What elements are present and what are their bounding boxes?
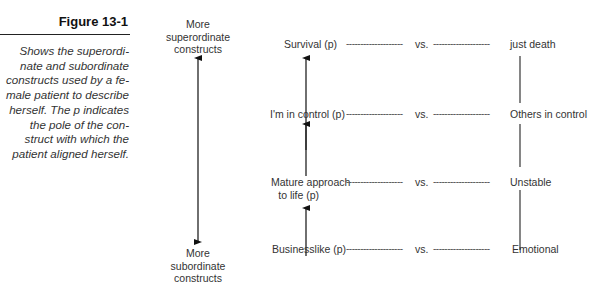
vs-label: vs.: [415, 38, 428, 51]
dash-line: --------------------: [433, 38, 490, 49]
construct-right-emotional: Emotional: [512, 243, 559, 256]
construct-left-survival: Survival (p): [284, 38, 337, 51]
construct-left-in-control: I'm in control (p): [270, 108, 345, 121]
construct-right-unstable: Unstable: [510, 176, 551, 189]
dash-line: --------------------: [433, 243, 490, 254]
vs-label: vs.: [415, 243, 428, 256]
dash-line: --------------------: [346, 243, 403, 254]
construct-left-mature-approach: Mature approach to life (p): [271, 176, 350, 201]
dash-line: --------------------: [346, 38, 403, 49]
vs-label: vs.: [415, 176, 428, 189]
dash-line: --------------------: [346, 108, 403, 119]
construct-left-businesslike: Businesslike (p): [272, 243, 346, 256]
construct-right-others-in-control: Others in control: [510, 108, 587, 121]
dash-line: --------------------: [433, 176, 490, 187]
vs-label: vs.: [415, 108, 428, 121]
construct-right-just-death: just death: [510, 38, 556, 51]
dash-line: --------------------: [433, 108, 490, 119]
dash-line: --------------------: [346, 176, 403, 187]
